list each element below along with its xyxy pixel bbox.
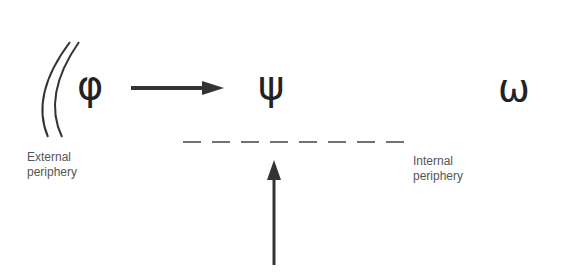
external-periphery-label: External periphery — [27, 150, 77, 180]
internal-periphery-label: Internal periphery — [413, 154, 463, 184]
omega-symbol: ω — [498, 66, 530, 110]
periphery-diagram: φ ψ ω External periphery Internal periph… — [0, 0, 572, 279]
external-periphery-arc-inner — [55, 42, 79, 137]
diagram-lines — [0, 0, 572, 279]
vertical-arrow-head — [267, 160, 281, 180]
psi-symbol: ψ — [258, 62, 284, 108]
horizontal-arrow-head — [202, 81, 224, 95]
phi-symbol: φ — [77, 62, 103, 108]
